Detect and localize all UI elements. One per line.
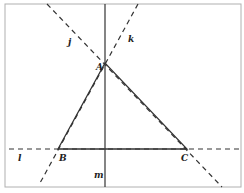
- label-m: m: [94, 170, 104, 180]
- label-C: C: [181, 153, 189, 163]
- label-A: A: [95, 62, 103, 72]
- label-k: k: [128, 34, 134, 44]
- triangle-abc: [58, 63, 187, 149]
- line-j: [47, 4, 222, 187]
- label-B: B: [58, 153, 67, 163]
- label-j: j: [66, 37, 72, 47]
- label-l: l: [18, 153, 22, 163]
- geometry-diagram: j k A l B C m: [0, 0, 244, 193]
